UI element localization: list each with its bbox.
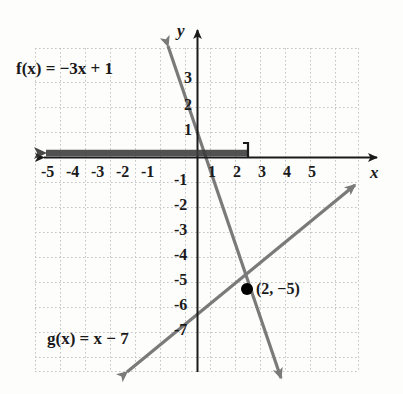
y-tick--4: -4 [174,247,187,263]
x-tick-5: 5 [308,164,316,180]
y-axis-label: y [177,22,185,39]
graph-figure: -5 -4 -3 -2 -1 1 2 3 4 5 1 2 3 -1 -2 -3 … [0,0,403,394]
y-tick--2: -2 [174,197,187,213]
y-tick-3: 3 [184,70,192,86]
intersection-point-label: (2, −5) [256,281,300,297]
x-tick-2: 2 [233,164,241,180]
x-tick-4: 4 [283,164,291,180]
y-tick-1: 1 [184,122,192,138]
x-tick--1: -1 [141,164,154,180]
x-tick--2: -2 [116,164,129,180]
y-tick--5: -5 [174,272,187,288]
line-g [127,185,355,372]
x-tick--4: -4 [66,164,79,180]
g-equation-label: g(x) = x − 7 [47,330,129,347]
x-tick-3: 3 [258,164,266,180]
y-tick--3: -3 [174,222,187,238]
y-tick--1: -1 [174,172,187,188]
y-tick--6: -6 [174,297,187,313]
x-tick--5: -5 [41,164,54,180]
y-tick-2: 2 [184,97,192,113]
y-tick--7: -7 [174,322,187,338]
solution-ray [46,143,248,158]
x-axis-label: x [370,164,379,181]
x-tick-1: 1 [208,164,216,180]
x-tick--3: -3 [91,164,104,180]
f-equation-label: f(x) = −3x + 1 [16,60,113,77]
intersection-dot [241,283,253,295]
